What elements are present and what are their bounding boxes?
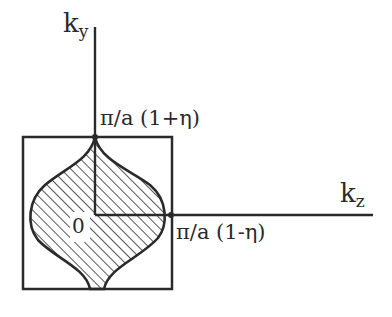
ky-intercept-dot (92, 134, 98, 140)
fermi-surface-diagram (0, 0, 392, 317)
ky-intercept-label: π/a (1+η) (100, 108, 200, 129)
hatched-fermi-region (30, 137, 164, 289)
ky-label-main: k (63, 8, 79, 38)
ky-label-sub: y (79, 21, 89, 41)
origin-label: 0 (72, 216, 85, 236)
kz-axis-label: kz (340, 180, 365, 210)
kz-intercept-label: π/a (1-η) (176, 222, 266, 243)
kz-intercept-dot (168, 212, 174, 218)
ky-axis-label: ky (63, 10, 88, 40)
kz-label-sub: z (356, 191, 365, 211)
kz-label-main: k (340, 178, 356, 208)
